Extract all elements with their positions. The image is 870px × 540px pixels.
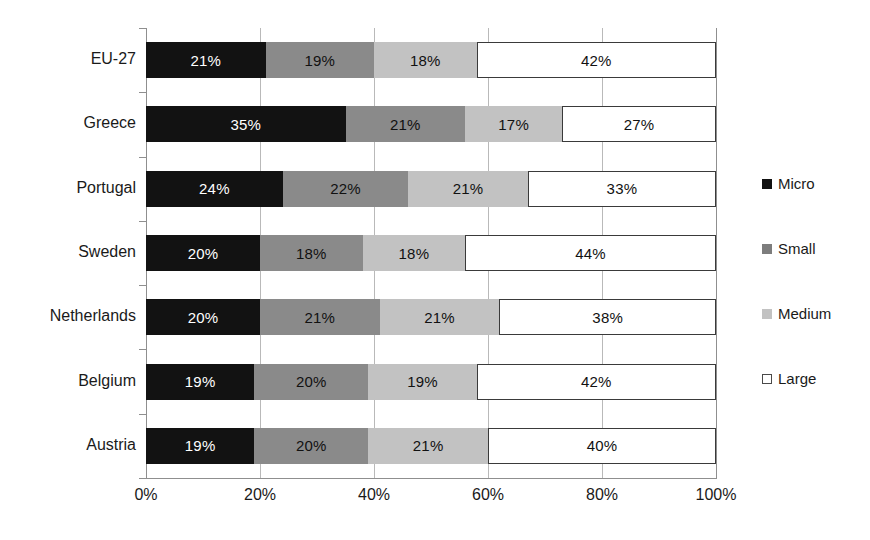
bar-segment-label: 18% (296, 245, 327, 262)
bar-segment-label: 20% (296, 437, 327, 454)
bar-segment-small[interactable]: 19% (266, 42, 374, 78)
bar-segment-large[interactable]: 33% (528, 171, 716, 207)
category-tick (139, 28, 146, 29)
value-axis-labels: 0%20%40%60%80%100% (146, 486, 717, 510)
bar-segment-micro[interactable]: 35% (146, 106, 346, 142)
legend-item-label: Large (778, 370, 816, 387)
bar-segment-large[interactable]: 42% (477, 42, 716, 78)
category-tick (139, 478, 146, 479)
bar-segment-label: 21% (413, 437, 444, 454)
category-label-netherlands: Netherlands (6, 307, 136, 325)
bar-segment-medium[interactable]: 21% (368, 428, 488, 464)
value-axis-tick-label: 20% (244, 486, 276, 504)
legend-item-micro[interactable]: Micro (762, 175, 815, 192)
gridline-100 (716, 28, 717, 478)
medium-swatch-icon (762, 309, 772, 319)
bar-segment-small[interactable]: 22% (283, 171, 408, 207)
stacked-bar-chart: EU-27GreecePortugalSwedenNetherlandsBelg… (0, 0, 870, 540)
category-label-portugal: Portugal (6, 179, 136, 197)
value-axis-tick-label: 0% (134, 486, 157, 504)
large-swatch-icon (762, 374, 772, 384)
value-axis-line (146, 478, 717, 479)
category-tick (139, 92, 146, 93)
bar-segment-large[interactable]: 27% (562, 106, 716, 142)
bar-segment-small[interactable]: 21% (346, 106, 466, 142)
bar-segment-label: 17% (498, 116, 529, 133)
legend-item-large[interactable]: Large (762, 370, 816, 387)
category-axis-labels: EU-27GreecePortugalSwedenNetherlandsBelg… (0, 28, 136, 478)
bar-segment-label: 19% (185, 373, 216, 390)
bar-segment-medium[interactable]: 19% (368, 364, 476, 400)
bar-segment-label: 42% (581, 52, 612, 69)
bar-segment-label: 42% (581, 373, 612, 390)
bar-segment-label: 19% (407, 373, 438, 390)
bar-segment-micro[interactable]: 20% (146, 235, 260, 271)
category-tick (139, 414, 146, 415)
bar-segment-label: 40% (587, 437, 618, 454)
bar-segment-small[interactable]: 20% (254, 428, 368, 464)
bar-segment-label: 33% (607, 180, 638, 197)
category-tick (139, 221, 146, 222)
plot-area: 21%19%18%42%35%21%17%27%24%22%21%33%20%1… (146, 28, 716, 478)
value-axis-tick-label: 80% (586, 486, 618, 504)
category-tick (139, 157, 146, 158)
value-axis-tick-label: 100% (696, 486, 737, 504)
bar-row[interactable]: 35%21%17%27% (146, 106, 716, 142)
legend-item-label: Medium (778, 305, 831, 322)
bar-segment-small[interactable]: 20% (254, 364, 368, 400)
bar-segment-micro[interactable]: 21% (146, 42, 266, 78)
bar-row[interactable]: 21%19%18%42% (146, 42, 716, 78)
bar-segment-micro[interactable]: 20% (146, 299, 260, 335)
bar-segment-label: 19% (305, 52, 336, 69)
category-label-belgium: Belgium (6, 372, 136, 390)
category-tick (139, 349, 146, 350)
bar-segment-medium[interactable]: 18% (374, 42, 477, 78)
bar-segment-label: 21% (305, 309, 336, 326)
bar-segment-medium[interactable]: 18% (363, 235, 466, 271)
bar-segment-label: 35% (230, 116, 261, 133)
small-swatch-icon (762, 244, 772, 254)
bar-segment-small[interactable]: 18% (260, 235, 363, 271)
bar-segment-label: 20% (188, 309, 219, 326)
bar-row[interactable]: 20%21%21%38% (146, 299, 716, 335)
bar-segment-medium[interactable]: 17% (465, 106, 562, 142)
bar-segment-label: 21% (453, 180, 484, 197)
bar-row[interactable]: 20%18%18%44% (146, 235, 716, 271)
bar-row[interactable]: 19%20%21%40% (146, 428, 716, 464)
bar-segment-label: 18% (399, 245, 430, 262)
bar-segment-small[interactable]: 21% (260, 299, 380, 335)
bar-segment-label: 21% (390, 116, 421, 133)
bar-segment-label: 24% (199, 180, 230, 197)
bar-segment-label: 18% (410, 52, 441, 69)
bar-segment-medium[interactable]: 21% (408, 171, 528, 207)
category-label-sweden: Sweden (6, 243, 136, 261)
value-axis-tick-label: 40% (358, 486, 390, 504)
bar-segment-micro[interactable]: 19% (146, 428, 254, 464)
bar-segment-medium[interactable]: 21% (380, 299, 500, 335)
bar-segment-large[interactable]: 38% (499, 299, 716, 335)
bar-segment-label: 22% (330, 180, 361, 197)
bar-segment-label: 27% (624, 116, 655, 133)
legend-item-medium[interactable]: Medium (762, 305, 831, 322)
bar-segment-large[interactable]: 42% (477, 364, 716, 400)
bar-segment-label: 19% (185, 437, 216, 454)
category-label-greece: Greece (6, 114, 136, 132)
bar-segment-label: 20% (296, 373, 327, 390)
bar-segment-label: 21% (424, 309, 455, 326)
chart-legend: MicroSmallMediumLarge (762, 160, 866, 390)
legend-item-label: Micro (778, 175, 815, 192)
legend-item-label: Small (778, 240, 816, 257)
category-label-eu-27: EU-27 (6, 50, 136, 68)
bar-segment-label: 38% (592, 309, 623, 326)
bar-segment-large[interactable]: 40% (488, 428, 716, 464)
bar-row[interactable]: 19%20%19%42% (146, 364, 716, 400)
bar-segment-large[interactable]: 44% (465, 235, 716, 271)
bar-row[interactable]: 24%22%21%33% (146, 171, 716, 207)
category-label-austria: Austria (6, 436, 136, 454)
bar-segment-label: 44% (575, 245, 606, 262)
bar-segment-label: 20% (188, 245, 219, 262)
bar-segment-micro[interactable]: 24% (146, 171, 283, 207)
bar-segment-micro[interactable]: 19% (146, 364, 254, 400)
category-tick (139, 285, 146, 286)
legend-item-small[interactable]: Small (762, 240, 816, 257)
